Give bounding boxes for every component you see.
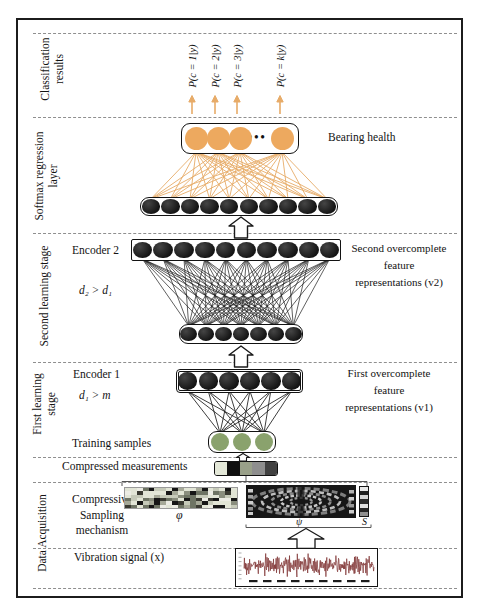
softmax_out-node <box>207 127 230 150</box>
enc2_out-node <box>299 242 319 259</box>
dims1-label: d₁ > m <box>79 389 111 401</box>
psi-center-band <box>298 487 305 516</box>
s-vector-strip <box>359 486 369 517</box>
training-samples-layer <box>208 431 276 453</box>
probability-label-2: P(c = 2|y) <box>210 44 221 87</box>
note-line: feature <box>336 257 462 274</box>
phi-matrix <box>124 487 238 509</box>
section-label-second-stage: Second learning stage <box>38 246 52 347</box>
note-line: Sampling <box>59 508 145 524</box>
enc2_in-node <box>198 327 215 341</box>
section-label-line: Data Acquisition <box>36 494 50 572</box>
section-label-line: results <box>52 37 66 100</box>
section-divider <box>33 117 457 118</box>
vibration-signal-plot <box>235 548 378 587</box>
enc1_out-node <box>199 372 219 390</box>
softmax_out-node <box>229 127 252 150</box>
enc2_out-node <box>216 242 236 259</box>
enc2_in-node <box>250 327 267 341</box>
encoder1-label: Encoder 1 <box>73 368 120 380</box>
measurement-segment <box>215 462 227 475</box>
encoder2-input-layer <box>179 324 303 344</box>
softmax_in-node <box>259 199 278 214</box>
section-divider <box>33 457 457 458</box>
enc2_in-node <box>285 327 302 341</box>
section-divider <box>33 362 457 363</box>
softmax_in-node <box>318 199 337 214</box>
section-label-softmax: Softmax regression layer <box>33 131 60 220</box>
enc2_in-node <box>215 327 232 341</box>
softmax-input-layer <box>140 197 338 216</box>
second-overcomplete-note: Second overcomplete feature representati… <box>336 240 462 291</box>
note-line: mechanism <box>59 523 145 539</box>
section-label-line: layer <box>46 131 60 220</box>
x-axis-tick <box>333 580 342 582</box>
softmax_in-node <box>181 199 200 214</box>
measurement-segment <box>227 462 239 475</box>
x-axis-tick <box>347 580 356 582</box>
bearing-health-label: Bearing health <box>328 131 395 143</box>
section-label-line: First learning <box>31 373 45 435</box>
softmax_in-node <box>298 199 317 214</box>
section-label-data-acquisition: Data Acquisition <box>36 494 50 572</box>
compressed-measurements-label: Compressed measurements <box>62 460 188 472</box>
vibration-waveform <box>236 549 376 585</box>
figure-canvas: Classification results Softmax regressio… <box>0 0 485 616</box>
first-overcomplete-note: First overcomplete feature representatio… <box>330 365 448 416</box>
enc2_out-node <box>278 242 298 259</box>
x-axis-tick <box>305 580 314 582</box>
softmax_in-node <box>161 199 180 214</box>
compressed-measurements-strip <box>214 461 278 476</box>
section-divider <box>33 482 457 483</box>
phi-label: φ <box>176 508 183 523</box>
note-line: Second overcomplete <box>336 240 462 257</box>
x-axis-tick <box>291 580 300 582</box>
x-axis-tick <box>249 580 258 582</box>
s-label: S <box>362 516 367 527</box>
note-line: feature <box>330 382 448 399</box>
encoder2-label: Encoder 2 <box>72 244 119 256</box>
x-axis-tick <box>263 580 272 582</box>
enc2_out-node <box>153 242 173 259</box>
enc2_out-node <box>133 242 153 259</box>
enc1_in-node <box>255 433 273 451</box>
section-divider <box>33 588 457 589</box>
enc2_out-node <box>174 242 194 259</box>
encoder1-output-layer <box>176 369 303 393</box>
enc1_out-node <box>282 372 302 390</box>
enc2_in-node <box>233 327 250 341</box>
enc2_in-node <box>268 327 285 341</box>
enc2_out-node <box>195 242 215 259</box>
phi-cell <box>231 505 237 508</box>
softmax_out-node <box>185 127 208 150</box>
x-axis-tick <box>319 580 328 582</box>
section-label-classification: Classification results <box>39 37 66 100</box>
enc1_in-node <box>211 433 229 451</box>
section-label-first-stage: First learning stage <box>31 373 58 435</box>
softmax_out-node <box>271 127 294 150</box>
probability-label-k: P(c = k|y) <box>275 45 286 88</box>
section-label-line: Softmax regression <box>33 131 47 220</box>
measurement-segment <box>240 462 252 475</box>
enc1_out-node <box>240 372 260 390</box>
measurement-segment <box>252 462 264 475</box>
softmax_in-node <box>220 199 239 214</box>
note-line: First overcomplete <box>330 365 448 382</box>
enc1_out-node <box>219 372 239 390</box>
dims2-label: d₂ > d₁ <box>79 284 112 296</box>
section-divider <box>33 233 457 234</box>
enc2_in-node <box>180 327 197 341</box>
softmax-output-layer: ••• <box>181 123 299 154</box>
note-line: representations (v1) <box>330 399 448 416</box>
softmax_in-node <box>240 199 259 214</box>
section-divider <box>33 33 457 34</box>
s-cell <box>360 512 368 516</box>
x-axis-tick <box>361 580 370 582</box>
enc1_out-node <box>178 372 198 390</box>
note-line: representations (v2) <box>336 274 462 291</box>
probability-label-1: P(c = 1|y) <box>187 44 198 87</box>
waveform-trace <box>244 554 374 578</box>
enc1_in-node <box>233 433 251 451</box>
softmax_in-node <box>279 199 298 214</box>
enc2_out-node <box>257 242 277 259</box>
